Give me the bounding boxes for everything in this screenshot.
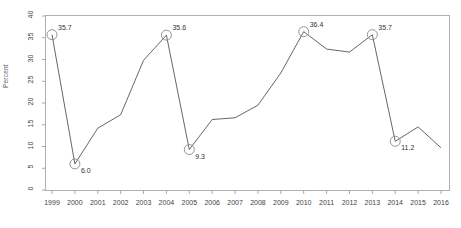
- x-tick-label: 2007: [223, 199, 247, 206]
- data-point-label: 9.3: [195, 153, 205, 160]
- y-tick-label: 30: [27, 50, 34, 66]
- x-tick-label: 2006: [200, 199, 224, 206]
- data-point-label: 35.7: [378, 24, 392, 31]
- x-tick-label: 2005: [177, 199, 201, 206]
- x-tick-label: 1999: [40, 199, 64, 206]
- x-tick-label: 2004: [154, 199, 178, 206]
- data-point-label: 35.6: [172, 24, 186, 31]
- data-point-markers: [47, 27, 400, 169]
- x-tick-label: 2008: [246, 199, 270, 206]
- y-tick-label: 35: [27, 28, 34, 44]
- data-point-label: 36.4: [310, 21, 324, 28]
- x-tick-label: 2000: [63, 199, 87, 206]
- y-tick-label: 25: [27, 72, 34, 88]
- data-point-label: 6.0: [81, 167, 91, 174]
- x-tick-label: 2003: [132, 199, 156, 206]
- x-tick-label: 2009: [269, 199, 293, 206]
- y-tick-label: 5: [27, 159, 34, 175]
- plot-frame: [46, 16, 450, 191]
- x-tick-label: 2010: [292, 199, 316, 206]
- data-point-label: 11.2: [401, 144, 414, 151]
- y-tick-label: 40: [27, 7, 34, 23]
- y-tick-label: 0: [27, 181, 34, 197]
- chart-plot-area: [0, 0, 461, 228]
- data-series-line: [52, 32, 441, 164]
- x-tick-label: 2012: [337, 199, 361, 206]
- x-tick-label: 2016: [429, 199, 453, 206]
- x-tick-label: 2002: [109, 199, 133, 206]
- x-tick-label: 2014: [383, 199, 407, 206]
- y-tick-label: 15: [27, 115, 34, 131]
- y-tick-label: 10: [27, 137, 34, 153]
- data-point-label: 35.7: [58, 24, 72, 31]
- y-axis-title: Percent: [2, 64, 9, 88]
- x-tick-label: 2011: [315, 199, 339, 206]
- y-tick-label: 20: [27, 94, 34, 110]
- line-chart: Percent 0510152025303540 199920002001200…: [0, 0, 461, 228]
- x-tick-label: 2001: [86, 199, 110, 206]
- x-tick-label: 2013: [360, 199, 384, 206]
- x-tick-label: 2015: [406, 199, 430, 206]
